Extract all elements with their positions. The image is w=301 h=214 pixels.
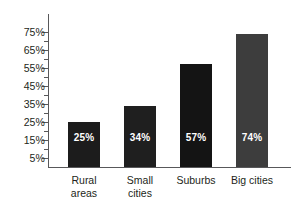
y-axis-tick-label: 5% <box>0 153 45 163</box>
y-axis-tick-label: 35% <box>0 99 45 109</box>
x-axis-category-label: Big cities <box>217 174 287 187</box>
bar: 25% <box>68 122 100 167</box>
y-axis-minor-tick <box>44 131 49 132</box>
bar: 34% <box>124 106 156 167</box>
y-axis-line <box>48 14 49 168</box>
y-axis-tick-label: 45% <box>0 81 45 91</box>
bar-value-label: 74% <box>236 132 268 143</box>
y-axis-minor-tick <box>44 41 49 42</box>
bar-value-label: 34% <box>124 132 156 143</box>
y-axis-tick-label: 15% <box>0 135 45 145</box>
y-axis-tick-label: 55% <box>0 63 45 73</box>
category-label-line: cities <box>105 187 175 200</box>
y-axis-minor-tick <box>44 113 49 114</box>
category-label-line: Big cities <box>217 174 287 187</box>
y-axis-tick-label: 65% <box>0 45 45 55</box>
y-axis-minor-tick <box>44 77 49 78</box>
y-axis-tick-label: 25% <box>0 117 45 127</box>
y-axis-minor-tick <box>44 59 49 60</box>
bar: 57% <box>180 64 212 167</box>
y-axis-minor-tick <box>44 149 49 150</box>
bar: 74% <box>236 34 268 167</box>
x-axis-line <box>48 167 291 168</box>
y-axis-minor-tick <box>44 95 49 96</box>
bar-chart: 75%65%55%45%35%25%15%5% 25%34%57%74% Rur… <box>0 0 301 214</box>
y-axis-tick-label: 75% <box>0 27 45 37</box>
bar-value-label: 57% <box>180 132 212 143</box>
bar-value-label: 25% <box>68 132 100 143</box>
